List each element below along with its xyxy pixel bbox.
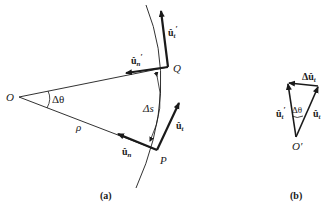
caption-b: (b): [290, 190, 302, 202]
caption-a: (a): [100, 190, 112, 202]
radius-line-oq: [19, 67, 168, 97]
label-delta-ut: Δût: [302, 71, 317, 84]
vector-un-prime-arrow: [126, 67, 168, 73]
label-center-o: O: [6, 91, 14, 103]
label-un: ûn: [122, 146, 132, 159]
panel-a: O Q P Δθ ρ Δs ût′ ûn′ ût ûn (a): [6, 5, 185, 202]
label-ut: ût: [176, 120, 185, 133]
label-rho: ρ: [75, 121, 81, 133]
label-delta-theta-b: Δθ: [292, 105, 302, 115]
panel-b: Δût ût′ ût Δθ O′ (b): [276, 71, 322, 202]
kinematics-diagram: O Q P Δθ ρ Δs ût′ ûn′ ût ûn (a) Δût ût′: [0, 0, 328, 211]
path-curve: [136, 5, 161, 188]
label-delta-s: Δs: [142, 102, 154, 114]
label-ut-b: ût: [313, 108, 322, 121]
label-point-p: P: [159, 154, 167, 166]
label-ut-prime-b: ût′: [276, 106, 286, 121]
label-un-prime: ûn′: [131, 53, 143, 68]
vector-ut-prime-arrow: [161, 11, 168, 67]
label-ut-prime: ût′: [168, 25, 178, 40]
label-delta-theta: Δθ: [52, 93, 64, 105]
label-point-q: Q: [173, 62, 181, 74]
label-origin-o-prime: O′: [292, 140, 303, 152]
angle-arc-delta-theta: [47, 91, 50, 108]
